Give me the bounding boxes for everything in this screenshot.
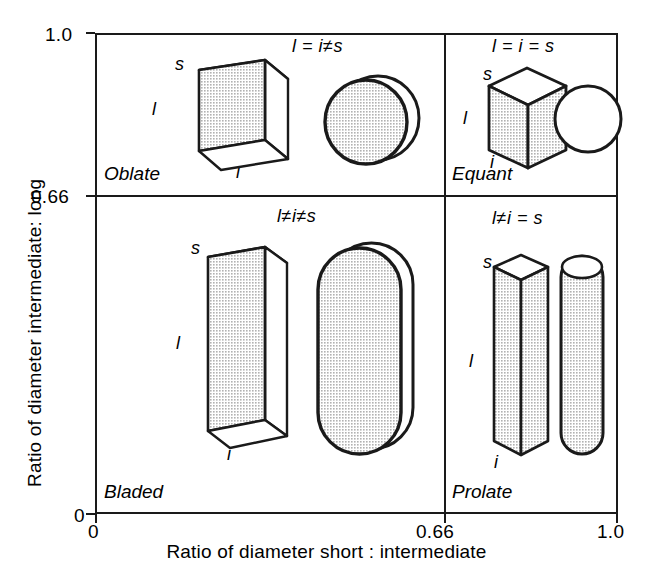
- dim-label-i-equant: i: [490, 152, 494, 173]
- quadrant-label-equant: Equant: [452, 163, 512, 185]
- x-axis-tick-label-right: 1.0: [597, 521, 624, 543]
- zingg-shape-diagram: 1.0 0.66 0 0 0.66 1.0 Ratio of diameter …: [0, 0, 653, 588]
- formula-oblate: l = i≠s: [292, 36, 343, 57]
- formula-equant: l = i = s: [492, 36, 555, 57]
- quadrant-label-bladed: Bladed: [104, 481, 163, 503]
- dim-label-l-bladed: l: [176, 333, 180, 354]
- vertical-divider-066: [444, 33, 446, 514]
- y-axis-title: Ratio of diameter intermediate: long: [24, 179, 46, 487]
- dim-label-i-oblate: i: [236, 162, 240, 183]
- dim-label-i-prolate: i: [494, 452, 498, 473]
- y-axis-tick-label-top: 1.0: [45, 24, 72, 46]
- x-axis-title: Ratio of diameter short : intermediate: [0, 541, 653, 563]
- y-tick-1.0: [86, 32, 95, 34]
- y-tick-0.66: [86, 195, 95, 197]
- dim-label-s-oblate: s: [175, 54, 184, 75]
- y-tick-0: [86, 513, 95, 515]
- formula-bladed: l≠i≠s: [277, 206, 316, 227]
- quadrant-label-oblate: Oblate: [104, 163, 160, 185]
- dim-label-l-prolate: l: [469, 351, 473, 372]
- dim-label-s-bladed: s: [191, 238, 200, 259]
- dim-label-s-prolate: s: [483, 252, 492, 273]
- dim-label-l-equant: l: [463, 108, 467, 129]
- x-axis-tick-label-mid: 0.66: [416, 521, 454, 543]
- y-axis-tick-label-bottom: 0: [74, 505, 85, 527]
- horizontal-divider-066: [95, 195, 618, 197]
- dim-label-i-bladed: i: [227, 444, 231, 465]
- plot-area-border: [95, 33, 618, 514]
- dim-label-s-equant: s: [483, 64, 492, 85]
- x-axis-tick-label-left: 0: [88, 521, 99, 543]
- formula-prolate: l≠i = s: [492, 208, 543, 229]
- dim-label-l-oblate: l: [152, 99, 156, 120]
- quadrant-label-prolate: Prolate: [452, 481, 512, 503]
